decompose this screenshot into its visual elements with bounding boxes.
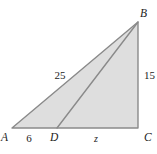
vertex-label-b: B	[140, 7, 147, 19]
triangle-abc-shape	[12, 22, 138, 128]
vertex-label-c: C	[144, 131, 152, 143]
side-length-ab: 25	[55, 69, 67, 81]
triangle-figure: A B C D 25 15 6 z	[0, 0, 157, 154]
side-length-bc: 15	[144, 69, 156, 81]
vertex-label-d: D	[49, 131, 59, 143]
vertex-label-a: A	[0, 131, 9, 143]
segment-length-ad: 6	[26, 132, 32, 144]
geometry-diagram: A B C D 25 15 6 z	[0, 0, 157, 154]
segment-length-dc-variable: z	[93, 133, 98, 144]
